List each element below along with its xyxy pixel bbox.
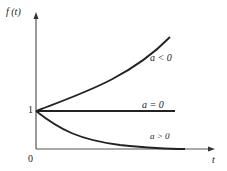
x-axis-label: t — [212, 154, 215, 165]
chart-canvas — [0, 0, 227, 171]
annotation-a-positive: a > 0 — [150, 131, 170, 141]
y-axis-arrow-icon — [34, 12, 39, 19]
x-axis-arrow-icon — [208, 147, 215, 152]
series-a-positive — [36, 111, 185, 149]
y-axis-label: f (t) — [6, 6, 21, 17]
annotation-a-zero: a = 0 — [142, 99, 164, 110]
annotation-a-negative: a < 0 — [150, 52, 172, 63]
y-tick-one: 1 — [28, 104, 33, 115]
origin-label: 0 — [28, 153, 33, 164]
